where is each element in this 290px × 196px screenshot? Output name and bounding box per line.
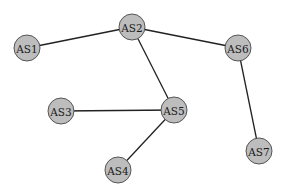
nodes-layer: AS1AS2AS3AS4AS5AS6AS7	[14, 14, 272, 183]
edge-as1-as2	[27, 27, 132, 48]
node-as6: AS6	[225, 35, 251, 61]
edge-as2-as5	[132, 27, 174, 110]
node-as3: AS3	[48, 98, 74, 124]
node-as5: AS5	[161, 97, 187, 123]
node-as1: AS1	[14, 35, 40, 61]
node-as2: AS2	[119, 14, 145, 40]
node-label: AS6	[226, 43, 249, 55]
node-label: AS3	[49, 106, 71, 118]
node-label: AS2	[120, 22, 142, 34]
node-as4: AS4	[105, 157, 131, 183]
node-label: AS5	[162, 105, 184, 117]
as-network-diagram: AS1AS2AS3AS4AS5AS6AS7	[0, 0, 290, 196]
node-label: AS7	[247, 146, 269, 158]
graph-svg: AS1AS2AS3AS4AS5AS6AS7	[0, 0, 290, 196]
node-as7: AS7	[246, 138, 272, 164]
edge-as6-as7	[238, 48, 259, 151]
node-label: AS4	[106, 165, 129, 177]
edge-as3-as5	[61, 110, 174, 111]
edge-as2-as6	[132, 27, 238, 48]
node-label: AS1	[15, 43, 37, 55]
